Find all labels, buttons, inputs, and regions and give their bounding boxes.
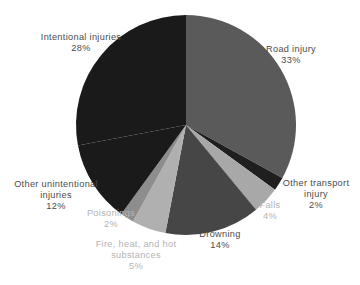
slice-label-intentional-injuries: Intentional injuries 28% (18, 32, 144, 54)
slice-label-text-line2: substances (88, 250, 184, 261)
slice-label-drowning: Drowning 14% (182, 229, 258, 251)
slice-label-value: 12% (6, 201, 106, 212)
slice-label-text: Road injury (245, 44, 337, 55)
slice-label-text-line2: injury (272, 189, 360, 200)
slice-label-value: 5% (88, 261, 184, 272)
slice-label-value: 14% (182, 240, 258, 251)
slice-label-text: Fire, heat, and hot (88, 239, 184, 250)
slice-label-value: 4% (250, 211, 290, 222)
slice-label-text: Drowning (182, 229, 258, 240)
slice-label-value: 28% (18, 43, 144, 54)
slice-label-text-line2: injuries (6, 190, 106, 201)
slice-label-text: Other transport (272, 178, 360, 189)
slice-label-text: Intentional injuries (18, 32, 144, 43)
pie-chart: Intentional injuries 28% Road injury 33%… (0, 0, 360, 285)
slice-label-fire-heat-and-hot-substances: Fire, heat, and hot substances 5% (88, 239, 184, 273)
slice-label-road-injury: Road injury 33% (245, 44, 337, 66)
slice-label-text: Other unintentional (6, 179, 106, 190)
slice-label-other-unintentional-injuries: Other unintentional injuries 12% (6, 179, 106, 213)
slice-label-falls: Falls 4% (250, 200, 290, 222)
slice-label-value: 2% (80, 219, 142, 230)
slice-label-text: Falls (250, 200, 290, 211)
slice-label-value: 33% (245, 55, 337, 66)
